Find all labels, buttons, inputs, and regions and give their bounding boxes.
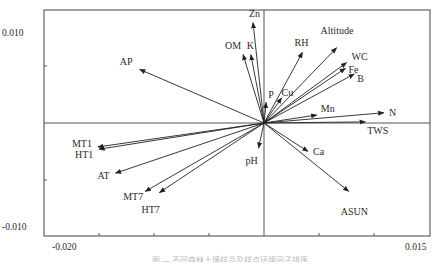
arrow-cu [264, 98, 282, 123]
arrow-ph [259, 123, 265, 148]
arrow-ca [264, 123, 308, 152]
arrow-ap [140, 69, 264, 123]
label-ca: Ca [313, 146, 325, 157]
label-zn: Zn [249, 8, 260, 19]
figure-caption: 图 — 不同森林土壤样品及样点环境因子排序 [100, 254, 360, 262]
rda-biplot: ZnOMKPCuRHAltitudeWCFeBMnNTWSAPMT1HT1ATM… [0, 0, 438, 265]
arrow-asun [264, 123, 349, 191]
label-cu: Cu [282, 87, 294, 98]
label-p: P [268, 89, 274, 100]
label-mn: Mn [321, 103, 335, 114]
label-wc: WC [352, 51, 368, 62]
x-tick-label-left: -0.020 [52, 242, 77, 252]
arrow-n [264, 113, 384, 123]
label-ht1: HT1 [75, 149, 93, 160]
label-asun: ASUN [341, 206, 368, 217]
label-ph: pH [246, 155, 258, 166]
arrow-labels: ZnOMKPCuRHAltitudeWCFeBMnNTWSAPMT1HT1ATM… [72, 8, 396, 218]
label-ht7: HT7 [142, 204, 160, 215]
arrow-ht1 [99, 123, 264, 149]
label-k: K [247, 40, 255, 51]
label-mt1: MT1 [72, 138, 92, 149]
label-ap: AP [120, 56, 133, 67]
arrow-om [243, 55, 264, 123]
arrow-fe [264, 68, 345, 123]
label-n: N [389, 107, 396, 118]
label-mt7: MT7 [123, 191, 143, 202]
axis-ticks [44, 66, 374, 236]
label-rh: RH [295, 37, 309, 48]
label-b: B [357, 73, 364, 84]
label-at: AT [98, 170, 110, 181]
label-altitude: Altitude [321, 25, 354, 36]
x-tick-label-right: 0.015 [405, 242, 427, 252]
y-tick-label-top: 0.010 [2, 28, 24, 38]
label-om: OM [225, 40, 241, 51]
y-tick-label-bottom: -0.010 [2, 222, 27, 232]
label-tws: TWS [367, 125, 388, 136]
